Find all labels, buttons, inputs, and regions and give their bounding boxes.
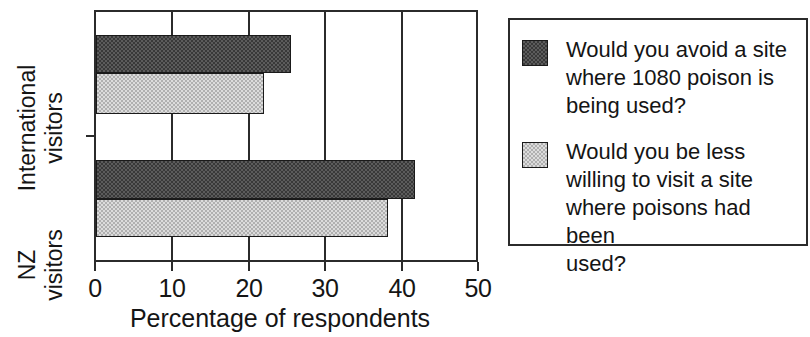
legend-willing-line3: where poisons had been: [566, 195, 751, 248]
x-tick-label-0: 0: [75, 274, 115, 302]
legend-willing-line4: used?: [566, 251, 626, 276]
plot-area: [94, 10, 478, 262]
legend-willing-line1: Would you be less: [566, 139, 745, 164]
x-tick-label-10: 10: [152, 274, 192, 302]
dark-hatch-swatch-icon: [522, 40, 548, 66]
x-tick-label-20: 20: [229, 274, 269, 302]
bar-nz-less-willing: [96, 199, 388, 237]
x-tick-30: [324, 262, 326, 271]
x-tick-20: [248, 262, 250, 271]
bar-nz-avoid-1080: [96, 160, 415, 199]
x-tick-0: [94, 262, 96, 271]
gridline-40: [401, 12, 403, 260]
legend-avoid-line3: being used?: [566, 93, 686, 118]
x-tick-label-50: 50: [458, 274, 498, 302]
x-tick-10: [171, 262, 173, 271]
legend: Would you avoid a site where 1080 poison…: [508, 18, 808, 246]
x-axis-title: Percentage of respondents: [0, 303, 560, 333]
bar-international-less-willing: [96, 73, 264, 114]
legend-label-avoid-1080: Would you avoid a site where 1080 poison…: [566, 36, 787, 120]
x-tick-40: [401, 262, 403, 271]
light-hatch-swatch-icon: [522, 142, 548, 168]
bar-international-avoid-1080: [96, 35, 291, 73]
x-tick-label-30: 30: [305, 274, 345, 302]
legend-entry-avoid-1080: Would you avoid a site where 1080 poison…: [522, 36, 800, 120]
legend-willing-line2: willing to visit a site: [566, 167, 753, 192]
x-tick-label-40: 40: [382, 274, 422, 302]
legend-entry-less-willing: Would you be less willing to visit a sit…: [522, 138, 800, 278]
legend-label-less-willing: Would you be less willing to visit a sit…: [566, 138, 800, 278]
legend-avoid-line1: Would you avoid a site: [566, 37, 787, 62]
x-tick-50: [477, 262, 479, 271]
legend-avoid-line2: where 1080 poison is: [566, 65, 774, 90]
bar-chart-figure: International visitors NZ visitors 0 10 …: [0, 0, 810, 337]
